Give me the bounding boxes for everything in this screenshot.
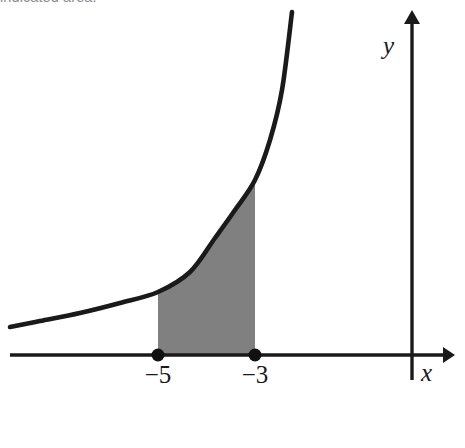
x-axis-label: x: [420, 359, 432, 386]
tick-label-minus-5: −5: [145, 361, 172, 388]
graph-svg: −5 −3 x y: [0, 0, 465, 448]
x-axis-arrow-icon: [443, 347, 455, 363]
y-axis-label: y: [380, 32, 395, 59]
tick-dot-minus-5: [152, 349, 165, 362]
tick-dot-minus-3: [249, 349, 262, 362]
y-axis-arrow-icon: [404, 10, 420, 24]
exponential-area-figure: indicated area. −5 −3 x y: [0, 0, 465, 448]
tick-label-minus-3: −3: [242, 361, 269, 388]
